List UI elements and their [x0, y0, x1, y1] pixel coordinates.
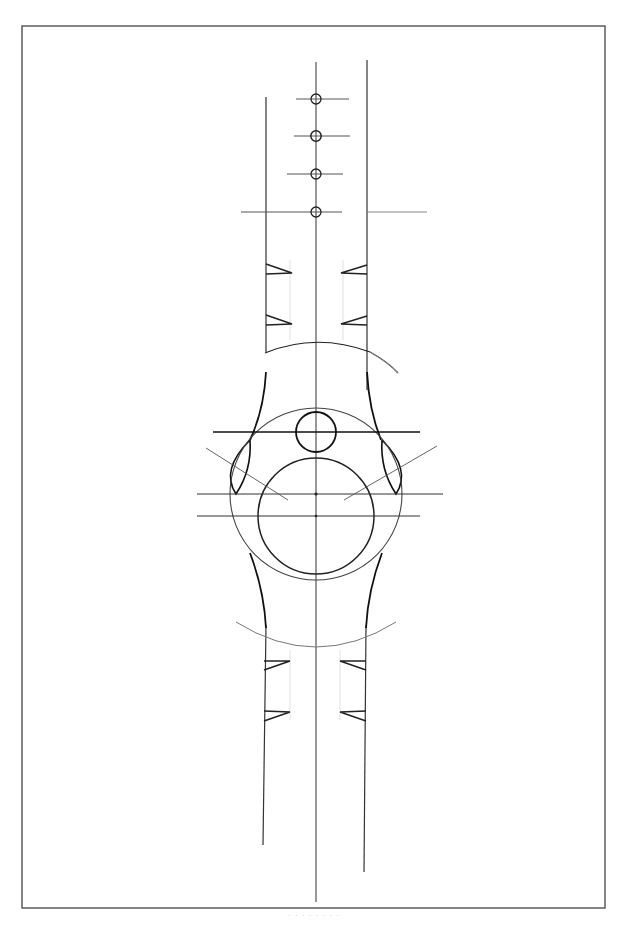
drawing-caption: · · · · · · · · [0, 911, 628, 920]
drawing-frame [22, 26, 605, 908]
case-side-cutout-right [382, 440, 402, 494]
strap-hole [296, 94, 349, 104]
upper-lug-arc-extension [370, 352, 398, 373]
strap-hole [294, 131, 350, 141]
strap-notch-lower-right [340, 661, 366, 721]
case-outline-right-lower [366, 553, 382, 628]
case-outline-left-lower [250, 553, 266, 628]
case-side-cutout-left [230, 440, 250, 494]
center-point [315, 515, 318, 518]
strap-notch-upper-left [266, 264, 292, 325]
strap-hole [287, 169, 343, 179]
upper-lug-arc [265, 342, 398, 373]
center-point [315, 493, 318, 496]
strap-notch-lower-left [264, 661, 290, 721]
strap-right-edge-lower [364, 625, 366, 872]
strap-hole [241, 207, 427, 217]
diagonal-guide-right [344, 446, 437, 500]
strap-left-edge-lower [263, 625, 266, 845]
watch-drawing [0, 0, 628, 926]
strap-notch-upper-right [341, 265, 367, 325]
